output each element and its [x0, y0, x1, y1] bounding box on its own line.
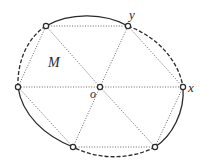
arc-x-v4 — [155, 87, 183, 147]
label-region-m: M — [48, 56, 60, 70]
vertex-x-marker — [180, 84, 185, 89]
spoke-o-v4 — [100, 87, 155, 147]
arc-y-x — [128, 26, 183, 87]
vertex-v4-marker — [152, 144, 157, 149]
vertex-v1-marker — [43, 23, 48, 28]
diagram-canvas: y x o M — [0, 0, 205, 167]
arc-v5-v6 — [18, 87, 73, 147]
center-o-marker — [97, 84, 102, 89]
arc-v4-v5 — [73, 147, 155, 157]
arc-v6-v1 — [18, 26, 46, 87]
vertex-markers — [15, 23, 185, 149]
vertex-v5-marker — [70, 144, 75, 149]
edge-v5-v6 — [18, 87, 73, 147]
label-x: x — [188, 81, 194, 94]
diagram-svg — [0, 0, 205, 167]
vertex-v6-marker — [15, 84, 20, 89]
label-o: o — [90, 88, 96, 100]
arc-v1-y — [46, 16, 128, 26]
edge-y-x — [128, 26, 183, 87]
label-y: y — [129, 8, 135, 21]
spoke-o-y — [100, 26, 128, 87]
vertex-y-marker — [125, 23, 130, 28]
